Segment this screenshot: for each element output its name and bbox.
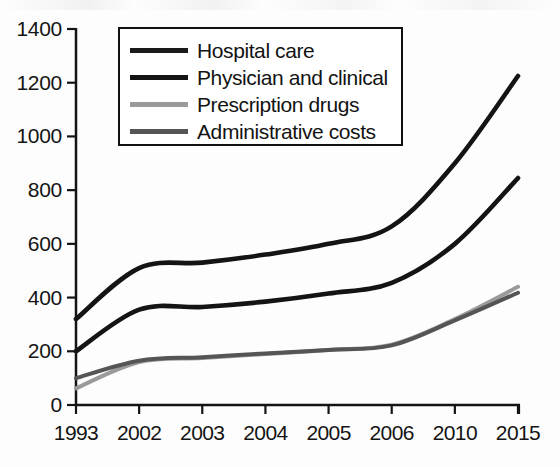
legend-swatch-prescription-drugs (130, 102, 188, 107)
x-axis-label-1993: 1993 (54, 422, 98, 443)
x-axis-label-2004: 2004 (243, 422, 287, 443)
legend-swatch-administrative-costs (130, 129, 188, 134)
x-axis-label-2002: 2002 (117, 422, 161, 443)
legend-item-hospital-care: Hospital care (130, 37, 314, 64)
legend-label-physician-and-clinical: Physician and clinical (197, 67, 388, 88)
x-axis-label-2005: 2005 (306, 422, 350, 443)
x-axis-label-2010: 2010 (433, 422, 477, 443)
legend-label-prescription-drugs: Prescription drugs (197, 94, 359, 115)
legend-item-prescription-drugs: Prescription drugs (130, 91, 359, 118)
legend-item-administrative-costs: Administrative costs (130, 118, 376, 145)
x-axis-label-2003: 2003 (180, 422, 224, 443)
legend-swatch-hospital-care (130, 48, 188, 53)
legend-swatch-physician-and-clinical (130, 75, 188, 81)
legend-label-administrative-costs: Administrative costs (197, 121, 376, 142)
chart-legend: Hospital care Physician and clinical Pre… (118, 27, 403, 146)
x-axis-label-2015: 2015 (496, 422, 540, 443)
x-axis-label-2006: 2006 (370, 422, 414, 443)
legend-item-physician-and-clinical: Physician and clinical (130, 64, 388, 91)
chart-container: 0200400600800100012001400 19932002200320… (0, 0, 560, 467)
legend-label-hospital-care: Hospital care (197, 40, 314, 61)
